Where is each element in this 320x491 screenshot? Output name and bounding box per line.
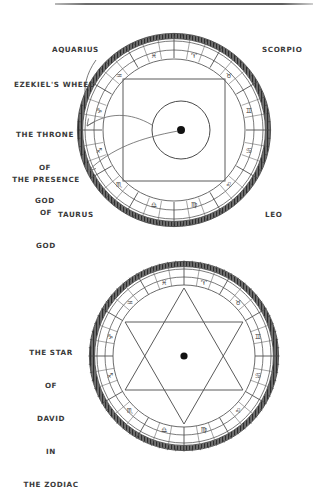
outer-rim — [80, 36, 268, 224]
zodiac-sign-dividers — [80, 36, 269, 225]
zodiac-glyph: ♊ — [255, 333, 261, 341]
label-ezekiels-wheel: EZEKIEL'S WHEEL — [14, 79, 94, 90]
zodiac-glyph: ♈ — [191, 52, 197, 60]
label-star-line-2: OF — [12, 380, 90, 391]
label-presence-of-god: THE PRESENCE OF GOD — [6, 152, 86, 273]
label-star-line-5: THE ZODIAC — [12, 479, 90, 490]
label-presence-line-3: GOD — [6, 240, 86, 251]
band-inner — [103, 59, 245, 201]
zodiac-glyph: ♍ — [191, 201, 197, 209]
throne-circle — [152, 101, 210, 159]
band-inner-2 — [113, 285, 255, 427]
zodiac-glyph: ♏ — [127, 407, 134, 415]
ezekiels-wheel-diagram: ♈♉♊♋♌♍♎♏♐♑♒♓ — [77, 33, 270, 226]
outer-rim-edge-2 — [89, 261, 278, 450]
presence-dot — [177, 126, 185, 134]
zodiac-glyph: ♍ — [201, 426, 207, 434]
zodiac-glyph: ♉ — [226, 72, 232, 80]
label-presence-line-1: THE PRESENCE — [6, 174, 86, 185]
outer-rim-2 — [92, 264, 276, 448]
label-presence-line-2: OF — [6, 207, 86, 218]
band-middle — [94, 50, 254, 210]
zodiac-glyph: ♋ — [255, 372, 261, 380]
hexagram-triangle-down — [125, 322, 243, 424]
zodiac-glyph: ♒ — [127, 299, 133, 307]
zodiac-glyphs: ♈♉♊♋♌♍♎♏♐♑♒♓ — [96, 52, 252, 210]
outer-rim-edge — [77, 33, 270, 226]
presence-leader-line — [88, 131, 178, 171]
band-outer-2 — [97, 269, 271, 443]
zodiac-glyph: ♉ — [235, 299, 241, 307]
hexagram — [125, 288, 243, 424]
label-scorpio: SCORPIO — [262, 44, 302, 55]
outer-rim-inner-edge-2 — [95, 267, 274, 446]
hexagram-triangle-up — [125, 288, 243, 390]
throne-leader-line — [87, 115, 152, 126]
label-aquarius: AQUARIUS — [52, 44, 99, 55]
label-star-line-1: THE STAR — [12, 347, 90, 358]
center-dot-2 — [180, 352, 187, 359]
zodiac-glyph: ♓ — [151, 52, 157, 60]
zodiac-glyph: ♊ — [246, 107, 252, 115]
label-star-line-3: DAVID — [12, 413, 90, 424]
zodiac-glyph: ♋ — [246, 147, 252, 155]
label-throne-line-1: THE THRONE — [8, 129, 82, 140]
presence-leader-arrow — [88, 163, 96, 171]
zodiac-glyphs-2: ♈♉♊♋♌♍♎♏♐♑♒♓ — [107, 279, 261, 435]
zodiac-glyph: ♒ — [116, 72, 122, 80]
label-star-line-4: IN — [12, 446, 90, 457]
zodiac-glyph: ♑ — [107, 333, 113, 341]
inscribed-square — [123, 79, 225, 181]
zodiac-sign-dividers-2 — [91, 263, 278, 450]
zodiac-glyph: ♎ — [161, 426, 167, 434]
zodiac-glyph: ♏ — [116, 181, 123, 189]
label-leo: LEO — [265, 209, 282, 220]
zodiac-glyph: ♐ — [107, 372, 113, 380]
zodiac-glyph: ♌ — [226, 181, 232, 189]
star-of-david-diagram: ♈♉♊♋♌♍♎♏♐♑♒♓ — [88, 260, 279, 451]
throne-leader-arrow — [87, 119, 94, 127]
zodiac-glyph: ♌ — [235, 407, 241, 415]
zodiac-glyph: ♑ — [96, 107, 102, 115]
zodiac-glyph: ♓ — [161, 279, 167, 287]
outer-rim-inner-edge — [83, 39, 266, 222]
label-star-of-david: THE STAR OF DAVID IN THE ZODIAC — [12, 325, 90, 491]
header-rule — [55, 3, 313, 5]
zodiac-glyph: ♎ — [151, 201, 157, 209]
degree-ticks — [77, 33, 270, 226]
degree-ticks-2 — [88, 260, 279, 451]
band-outer — [85, 41, 263, 219]
zodiac-glyph: ♐ — [96, 147, 102, 155]
zodiac-glyph: ♈ — [201, 279, 207, 287]
band-middle-2 — [105, 277, 263, 435]
